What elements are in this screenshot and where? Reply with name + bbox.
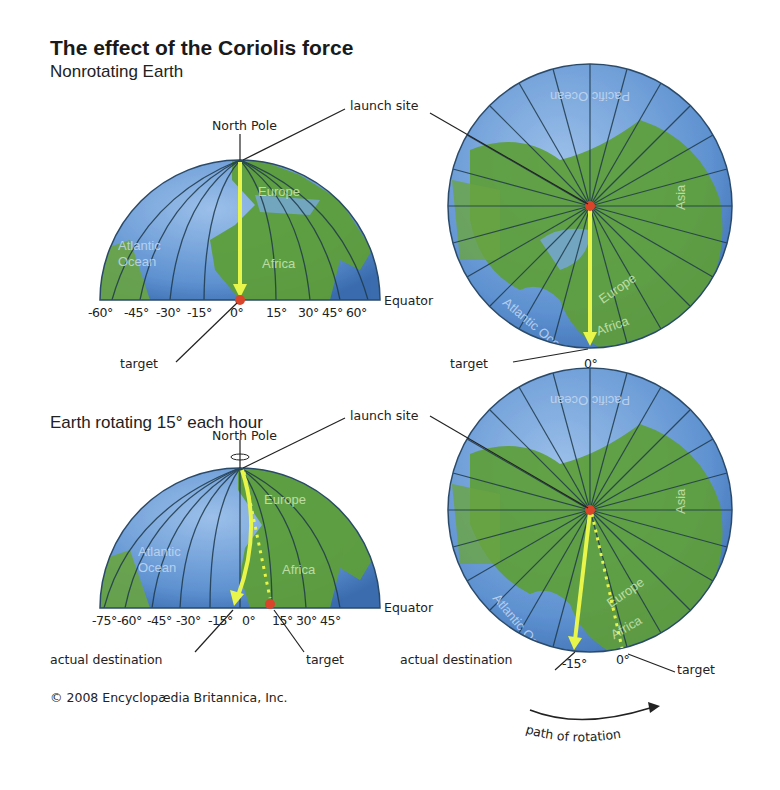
bottom-target-label: target [306, 652, 344, 667]
label-pacific-ocean: Pacific Ocean [550, 89, 630, 104]
coriolis-diagram-graphics: Europe Africa Atlantic Ocean [0, 0, 780, 790]
bottom-polar-actual-destination-label: actual destination [400, 652, 513, 667]
bottom-polar-zero-label: 0° [616, 652, 629, 667]
label-ocean-bottom: Ocean [138, 560, 176, 575]
svg-text:Pacific Ocean: Pacific Ocean [550, 393, 630, 408]
bottom-target-point [265, 599, 275, 609]
top-equator-label: Equator [384, 293, 433, 308]
copyright-notice: © 2008 Encyclopædia Britannica, Inc. [50, 690, 288, 705]
label-europe: Europe [258, 184, 300, 199]
label-ocean: Ocean [118, 254, 156, 269]
top-north-pole-label: North Pole [212, 118, 277, 133]
bottom-polar-target-label: target [677, 662, 715, 677]
top-longitude-scale: -60° -45° -30° -15° 0° 15° 30° 45° 60° [88, 305, 378, 323]
label-asia: Asia [673, 184, 688, 210]
top-launch-site-label: launch site [350, 98, 418, 113]
bottom-launch-site-label: launch site [350, 408, 418, 423]
label-africa: Africa [262, 256, 296, 271]
label-atlantic: Atlantic [118, 238, 161, 253]
bottom-longitude-scale: -75° -60° -45° -30° -15° 0° 15° 30° 45° [92, 613, 382, 631]
label-europe-bottom: Europe [264, 492, 306, 507]
path-of-rotation-arrow [530, 708, 650, 720]
top-polar-target-label: target [450, 356, 488, 371]
top-target-label: target [120, 356, 158, 371]
bottom-actual-destination-label: actual destination [50, 652, 163, 667]
top-polar-zero-label: 0° [584, 356, 597, 371]
svg-text:Asia: Asia [673, 488, 688, 514]
bottom-north-pole-label: North Pole [212, 428, 277, 443]
svg-text:path of rotation: path of rotation [524, 722, 622, 745]
label-africa-bottom: Africa [282, 562, 316, 577]
label-atlantic-bottom: Atlantic [138, 544, 181, 559]
path-of-rotation-label: path of rotation [524, 722, 622, 745]
bottom-equator-label: Equator [384, 600, 433, 615]
bottom-polar-minus15-label: -15° [562, 656, 587, 671]
